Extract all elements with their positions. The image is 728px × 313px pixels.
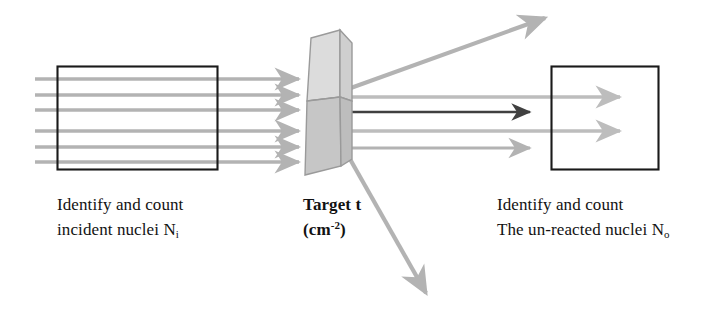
scattered-beam-group (342, 18, 545, 293)
caption-unreacted-subscript: o (664, 228, 670, 240)
caption-incident-line2: incident nuclei Ni (57, 217, 183, 244)
target-foil-slab (305, 30, 352, 175)
transmitted-beam-group (352, 97, 620, 148)
caption-target-line1: Target t (303, 192, 361, 217)
target-face-lower (305, 97, 341, 175)
scattered-beam-up (348, 18, 545, 89)
caption-target: Target t (cm-2) (303, 192, 361, 244)
caption-target-line2: (cm-2) (303, 217, 361, 244)
incident-beam-counter-box (58, 67, 218, 170)
target-edge-lower (340, 97, 352, 166)
unreacted-beam-counter-box (552, 67, 659, 170)
diagram-canvas (0, 0, 728, 313)
caption-unreacted-line1: Identify and count (497, 192, 670, 217)
caption-incident-line2-text: incident nuclei N (57, 220, 176, 239)
caption-target-units-exponent: -2 (331, 219, 340, 231)
caption-unreacted-line2-text: The un-reacted nuclei N (497, 220, 664, 239)
reaction-diagram: Identify and count incident nuclei Ni Ta… (0, 0, 728, 313)
incident-beam-group (35, 79, 299, 162)
target-edge-upper (340, 30, 352, 101)
caption-unreacted: Identify and count The un-reacted nuclei… (497, 192, 670, 244)
target-face-upper (307, 30, 340, 101)
caption-target-units-suffix: ) (340, 220, 346, 239)
caption-target-units-prefix: (cm (303, 220, 331, 239)
caption-incident: Identify and count incident nuclei Ni (57, 192, 183, 244)
caption-incident-subscript: i (176, 228, 179, 240)
caption-unreacted-line2: The un-reacted nuclei No (497, 217, 670, 244)
caption-incident-line1: Identify and count (57, 192, 183, 217)
